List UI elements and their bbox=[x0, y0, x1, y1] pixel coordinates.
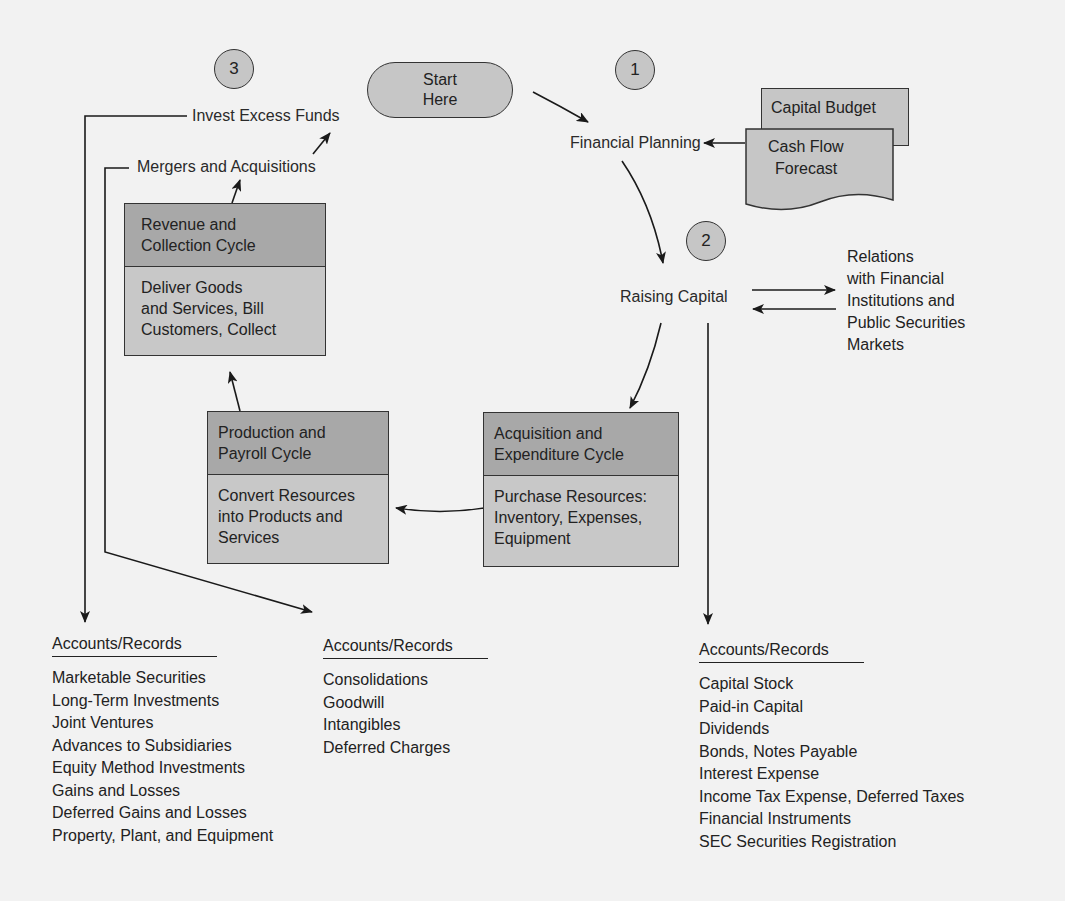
capital-budget-label: Capital Budget bbox=[771, 99, 876, 116]
account-item: Interest Expense bbox=[699, 763, 964, 786]
body-line: Inventory, Expenses, bbox=[494, 507, 662, 528]
production-cycle-title: Production and Payroll Cycle bbox=[208, 412, 388, 475]
relations-line: Institutions and bbox=[847, 290, 965, 312]
account-item: Equity Method Investments bbox=[52, 757, 273, 780]
title-line: Payroll Cycle bbox=[218, 443, 372, 464]
mergers-acquisitions-node: Mergers and Acquisitions bbox=[137, 157, 316, 177]
marker-label: 3 bbox=[229, 59, 238, 79]
investments-accounts: Accounts/Records Marketable Securities L… bbox=[52, 634, 273, 847]
accounts-title: Accounts/Records bbox=[323, 636, 488, 659]
body-line: Customers, Collect bbox=[141, 319, 309, 340]
revenue-cycle-body: Deliver Goods and Services, Bill Custome… bbox=[125, 267, 325, 355]
account-item: Deferred Charges bbox=[323, 737, 488, 760]
mergers-accounts: Accounts/Records Consolidations Goodwill… bbox=[323, 636, 488, 759]
body-line: Equipment bbox=[494, 528, 662, 549]
raising-capital-node: Raising Capital bbox=[620, 287, 728, 307]
title-line: Acquisition and bbox=[494, 423, 662, 444]
account-item: Paid-in Capital bbox=[699, 696, 964, 719]
revenue-collection-cycle: Revenue and Collection Cycle Deliver Goo… bbox=[124, 203, 326, 356]
accounts-list: Capital Stock Paid-in Capital Dividends … bbox=[699, 673, 964, 853]
accounts-list: Marketable Securities Long-Term Investme… bbox=[52, 667, 273, 847]
accounts-list: Consolidations Goodwill Intangibles Defe… bbox=[323, 669, 488, 759]
body-line: into Products and bbox=[218, 506, 372, 527]
account-item: Income Tax Expense, Deferred Taxes bbox=[699, 786, 964, 809]
account-item: Intangibles bbox=[323, 714, 488, 737]
account-item: Financial Instruments bbox=[699, 808, 964, 831]
cash-flow-line: Cash Flow bbox=[768, 136, 844, 158]
account-item: Consolidations bbox=[323, 669, 488, 692]
start-terminal: Start Here bbox=[367, 62, 513, 118]
account-item: Advances to Subsidiaries bbox=[52, 735, 273, 758]
accounts-title: Accounts/Records bbox=[52, 634, 217, 657]
acquisition-cycle-title: Acquisition and Expenditure Cycle bbox=[484, 413, 678, 476]
account-item: Long-Term Investments bbox=[52, 690, 273, 713]
step-marker-3: 3 bbox=[214, 49, 254, 89]
start-label-line1: Start bbox=[423, 70, 457, 90]
relations-line: Relations bbox=[847, 246, 965, 268]
accounts-title: Accounts/Records bbox=[699, 640, 864, 663]
title-line: Production and bbox=[218, 422, 372, 443]
title-line: Collection Cycle bbox=[141, 235, 309, 256]
production-cycle-body: Convert Resources into Products and Serv… bbox=[208, 475, 388, 563]
marker-label: 2 bbox=[701, 231, 710, 251]
cash-flow-line: Forecast bbox=[768, 158, 844, 180]
relations-node: Relations with Financial Institutions an… bbox=[847, 246, 965, 356]
relations-line: Markets bbox=[847, 334, 965, 356]
account-item: Bonds, Notes Payable bbox=[699, 741, 964, 764]
account-item: Property, Plant, and Equipment bbox=[52, 825, 273, 848]
start-label-line2: Here bbox=[423, 90, 458, 110]
account-item: SEC Securities Registration bbox=[699, 831, 964, 854]
acquisition-cycle-body: Purchase Resources: Inventory, Expenses,… bbox=[484, 476, 678, 566]
title-line: Expenditure Cycle bbox=[494, 444, 662, 465]
account-item: Marketable Securities bbox=[52, 667, 273, 690]
title-line: Revenue and bbox=[141, 214, 309, 235]
revenue-cycle-title: Revenue and Collection Cycle bbox=[125, 204, 325, 267]
relations-line: with Financial bbox=[847, 268, 965, 290]
marker-label: 1 bbox=[630, 60, 639, 80]
step-marker-2: 2 bbox=[686, 221, 726, 261]
body-line: Convert Resources bbox=[218, 485, 372, 506]
account-item: Goodwill bbox=[323, 692, 488, 715]
body-line: Deliver Goods bbox=[141, 277, 309, 298]
relations-line: Public Securities bbox=[847, 312, 965, 334]
step-marker-1: 1 bbox=[615, 50, 655, 90]
production-payroll-cycle: Production and Payroll Cycle Convert Res… bbox=[207, 411, 389, 564]
account-item: Joint Ventures bbox=[52, 712, 273, 735]
acquisition-expenditure-cycle: Acquisition and Expenditure Cycle Purcha… bbox=[483, 412, 679, 567]
financial-planning-node: Financial Planning bbox=[570, 133, 701, 153]
body-line: and Services, Bill bbox=[141, 298, 309, 319]
body-line: Services bbox=[218, 527, 372, 548]
capital-accounts: Accounts/Records Capital Stock Paid-in C… bbox=[699, 640, 964, 853]
account-item: Deferred Gains and Losses bbox=[52, 802, 273, 825]
cash-flow-forecast-label: Cash Flow Forecast bbox=[768, 136, 844, 180]
invest-excess-funds-node: Invest Excess Funds bbox=[192, 106, 340, 126]
account-item: Capital Stock bbox=[699, 673, 964, 696]
body-line: Purchase Resources: bbox=[494, 486, 662, 507]
account-item: Gains and Losses bbox=[52, 780, 273, 803]
account-item: Dividends bbox=[699, 718, 964, 741]
